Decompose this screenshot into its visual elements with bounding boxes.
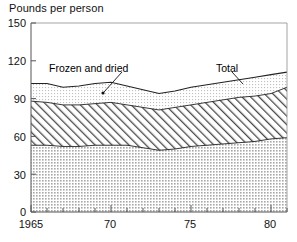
chart-plot-area xyxy=(0,0,297,242)
chart-figure: Pounds per person 150 120 90 60 30 0 196… xyxy=(0,0,297,242)
frozen-and-dried-leader-dot xyxy=(101,91,104,94)
